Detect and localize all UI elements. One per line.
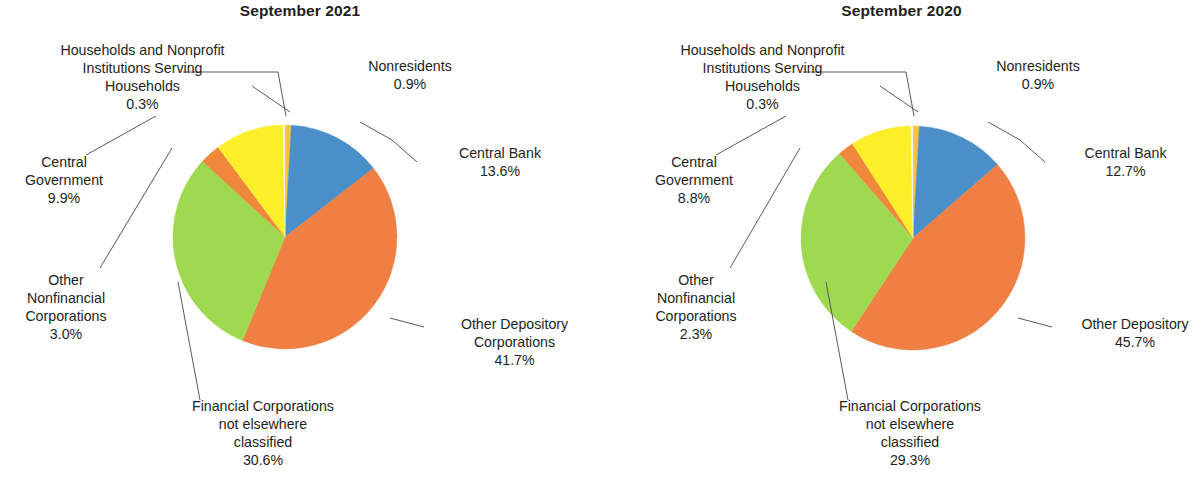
callout-households-nonprofit: Households and Nonprofit Institutions Se… [630, 42, 895, 114]
callout-other-depository: Other Depository Corporations 41.7% [432, 316, 597, 370]
callout-nonresidents: Nonresidents 0.9% [335, 58, 485, 94]
callout-central-government: Central Government 9.9% [5, 154, 123, 208]
central-government-leader [86, 116, 156, 155]
other-depository-leader [1018, 318, 1052, 327]
callout-households-nonprofit: Households and Nonprofit Institutions Se… [10, 42, 275, 114]
chart-panel-september-2020: September 2020 Households and Nonprofit … [600, 0, 1203, 494]
callout-other-depository: Other Depository 45.7% [1060, 316, 1203, 352]
callout-other-nonfinancial: Other Nonfinancial Corporations 3.0% [5, 272, 127, 344]
callout-financial-corps-nec: Financial Corporations not elsewhere cla… [812, 398, 1008, 470]
callout-nonresidents: Nonresidents 0.9% [963, 58, 1113, 94]
callout-financial-corps-nec: Financial Corporations not elsewhere cla… [165, 398, 361, 470]
central-bank-leader [360, 122, 417, 162]
callout-central-government: Central Government 8.8% [635, 154, 753, 208]
other-depository-leader [390, 318, 424, 327]
callout-central-bank: Central Bank 12.7% [1048, 145, 1203, 181]
callout-central-bank: Central Bank 13.6% [420, 145, 580, 181]
central-government-leader [716, 116, 786, 155]
central-bank-leader [988, 122, 1045, 162]
chart-panel-september-2021: September 2021 Households and Nonprofit … [0, 0, 600, 494]
pie-chart-figure: September 2021 Households and Nonprofit … [0, 0, 1203, 494]
callout-other-nonfinancial: Other Nonfinancial Corporations 2.3% [635, 272, 757, 344]
